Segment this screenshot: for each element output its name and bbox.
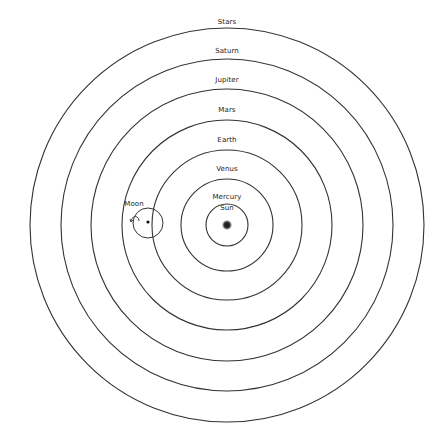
label-moon: Moon <box>124 201 143 208</box>
label-sun: Sun <box>220 205 234 212</box>
label-mercury: Mercury <box>212 194 241 201</box>
sun-icon <box>222 220 232 230</box>
label-venus: Venus <box>216 166 238 173</box>
earth-position-dot <box>146 220 149 223</box>
label-mars: Mars <box>218 107 235 114</box>
label-jupiter: Jupiter <box>215 77 239 84</box>
label-earth: Earth <box>217 137 236 144</box>
copernican-system-diagram <box>0 0 446 441</box>
label-saturn: Saturn <box>215 48 239 55</box>
label-stars: Stars <box>218 19 237 26</box>
